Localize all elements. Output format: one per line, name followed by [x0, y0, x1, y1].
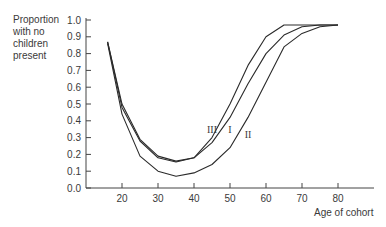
y-tick-label: 0.6 [67, 82, 81, 93]
x-tick-label: 70 [296, 193, 308, 204]
series-label: I [228, 124, 231, 135]
y-tick-label: 0.1 [67, 166, 81, 177]
series-labels: IIIIII [207, 124, 251, 140]
series-line-ii [108, 25, 338, 176]
y-tick-label: 0.0 [67, 183, 81, 194]
y-tick-label: 0.3 [67, 132, 81, 143]
x-tick-label: 60 [260, 193, 272, 204]
x-tick-label: 40 [188, 193, 200, 204]
y-tick-label: 1.0 [67, 15, 81, 26]
series-label: III [207, 124, 217, 135]
x-tick-label: 80 [332, 193, 344, 204]
x-tick-label: 30 [152, 193, 164, 204]
y-tick-label: 0.9 [67, 31, 81, 42]
x-tick-label: 50 [224, 193, 236, 204]
y-tick-label: 0.8 [67, 48, 81, 59]
series-lines [108, 25, 338, 176]
y-tick-label: 0.4 [67, 115, 81, 126]
y-tick-label: 0.2 [67, 149, 81, 160]
series-line-iii [108, 25, 338, 161]
series-label: II [245, 129, 252, 140]
line-chart: 0.00.10.20.30.40.50.60.70.80.91.02030405… [0, 0, 386, 227]
y-tick-label: 0.7 [67, 65, 81, 76]
y-tick-label: 0.5 [67, 99, 81, 110]
axes: 0.00.10.20.30.40.50.60.70.80.91.02030405… [67, 15, 374, 205]
x-tick-label: 20 [116, 193, 128, 204]
